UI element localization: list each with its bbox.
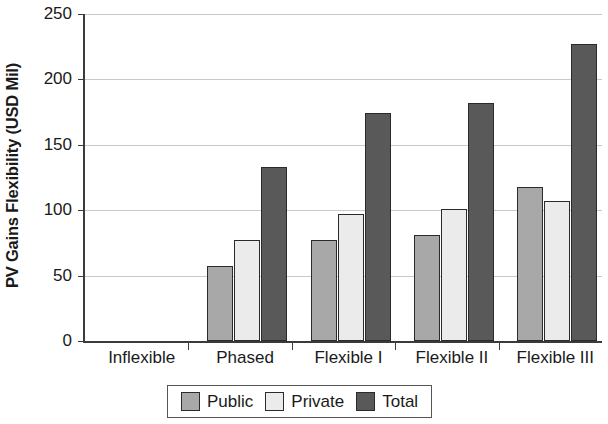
legend-label-public: Public	[207, 392, 253, 412]
legend-entry-private[interactable]: Private	[265, 392, 344, 412]
legend-label-private: Private	[291, 392, 344, 412]
bar-public-flexible-iii	[517, 187, 543, 341]
y-axis-tickmark	[78, 210, 85, 211]
bars-layer	[85, 14, 602, 341]
x-axis-label-phased: Phased	[216, 348, 274, 368]
legend-swatch-total	[356, 392, 375, 411]
legend-entry-total[interactable]: Total	[356, 392, 418, 412]
y-axis-tick-label: 0	[63, 331, 72, 351]
chart-legend: PublicPrivateTotal	[167, 385, 432, 418]
bar-private-flexible-i	[338, 214, 364, 341]
bar-private-flexible-iii	[544, 201, 570, 341]
y-axis-tick-label: 50	[53, 266, 72, 286]
bar-public-phased	[207, 266, 233, 341]
bar-chart: PV Gains Flexibility (USD Mil) 050100150…	[0, 0, 608, 424]
bar-total-flexible-iii	[571, 44, 597, 341]
y-axis-tick-label: 100	[44, 200, 72, 220]
y-axis-tickmark	[78, 145, 85, 146]
bar-public-flexible-i	[311, 240, 337, 341]
bar-public-flexible-ii	[414, 235, 440, 341]
bar-private-flexible-ii	[441, 209, 467, 341]
y-axis-tickmark	[78, 341, 85, 342]
y-axis-tickmark	[78, 14, 85, 15]
x-axis-tick-labels: InflexiblePhasedFlexible IFlexible IIFle…	[83, 348, 600, 374]
y-axis-tick-label: 200	[44, 69, 72, 89]
y-axis-tickmark	[78, 79, 85, 80]
bar-total-phased	[261, 167, 287, 341]
y-axis-tickmark	[78, 276, 85, 277]
x-axis-label-flexible-ii: Flexible II	[416, 348, 489, 368]
x-axis-label-inflexible: Inflexible	[108, 348, 175, 368]
legend-label-total: Total	[382, 392, 418, 412]
bar-total-flexible-ii	[468, 103, 494, 341]
legend-swatch-private	[265, 392, 284, 411]
y-axis-title: PV Gains Flexibility (USD Mil)	[0, 0, 26, 350]
x-axis-label-flexible-iii: Flexible III	[517, 348, 594, 368]
y-axis-title-text: PV Gains Flexibility (USD Mil)	[4, 62, 23, 287]
y-axis-tick-labels: 050100150200250	[26, 0, 76, 360]
x-axis-label-flexible-i: Flexible I	[314, 348, 382, 368]
y-axis-tick-label: 250	[44, 4, 72, 24]
bar-total-flexible-i	[365, 113, 391, 341]
legend-swatch-public	[181, 392, 200, 411]
bar-private-phased	[234, 240, 260, 341]
y-axis-tick-label: 150	[44, 135, 72, 155]
plot-area	[83, 14, 602, 343]
legend-entry-public[interactable]: Public	[181, 392, 253, 412]
